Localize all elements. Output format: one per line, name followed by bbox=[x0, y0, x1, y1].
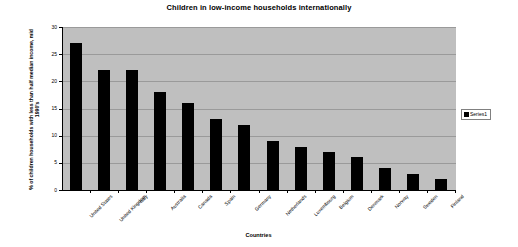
bar[interactable] bbox=[182, 103, 194, 190]
bar-slot bbox=[259, 27, 287, 190]
x-tick-mark bbox=[455, 190, 456, 193]
x-tick-mark bbox=[146, 190, 147, 193]
x-tick-mark bbox=[399, 190, 400, 193]
y-tick-label: 25 bbox=[41, 52, 57, 57]
x-tick-label: United States bbox=[89, 194, 114, 219]
bar-slot bbox=[118, 27, 146, 190]
x-tick-mark bbox=[343, 190, 344, 193]
bar-slot bbox=[399, 27, 427, 190]
bar-slot bbox=[90, 27, 118, 190]
x-tick-label: Finland bbox=[450, 194, 465, 209]
bar[interactable] bbox=[70, 43, 82, 190]
x-tick-mark bbox=[118, 190, 119, 193]
bar-slot bbox=[343, 27, 371, 190]
bar-slot bbox=[371, 27, 399, 190]
bar-slot bbox=[174, 27, 202, 190]
y-tick-label: 20 bbox=[41, 79, 57, 84]
bar-slot bbox=[146, 27, 174, 190]
bar[interactable] bbox=[210, 119, 222, 190]
y-tick-mark bbox=[59, 190, 62, 191]
chart-title: Children in low-income households intern… bbox=[0, 3, 518, 12]
bar[interactable] bbox=[154, 92, 166, 190]
bar[interactable] bbox=[295, 147, 307, 190]
x-tick-label: Luxembourg bbox=[313, 194, 336, 217]
x-tick-label: Norway bbox=[394, 194, 410, 210]
x-tick-label: Australia bbox=[170, 194, 188, 212]
x-tick-label: Belgium bbox=[338, 194, 355, 211]
x-tick-label: Netherlands bbox=[284, 194, 307, 217]
bar[interactable] bbox=[323, 152, 335, 190]
x-tick-label: Canada bbox=[197, 194, 213, 210]
bar-slot bbox=[230, 27, 258, 190]
bar[interactable] bbox=[379, 168, 391, 190]
x-tick-label: Spain bbox=[224, 194, 237, 207]
y-tick-label: 10 bbox=[41, 133, 57, 138]
bar[interactable] bbox=[126, 70, 138, 190]
x-tick-mark bbox=[202, 190, 203, 193]
legend: Series1 bbox=[461, 109, 491, 120]
legend-swatch-series1 bbox=[464, 112, 469, 117]
bar[interactable] bbox=[351, 157, 363, 190]
legend-label-series1: Series1 bbox=[470, 112, 487, 117]
x-tick-mark bbox=[371, 190, 372, 193]
y-axis-title: % of children households with less than … bbox=[28, 22, 41, 197]
bar-slot bbox=[62, 27, 90, 190]
bar-slot bbox=[287, 27, 315, 190]
bar-chart: Children in low-income households intern… bbox=[0, 0, 518, 247]
x-tick-mark bbox=[287, 190, 288, 193]
x-axis-title: Countries bbox=[62, 232, 455, 238]
x-tick-label: Italy bbox=[139, 194, 149, 204]
bar[interactable] bbox=[98, 70, 110, 190]
x-tick-label: Denmark bbox=[367, 194, 385, 212]
x-tick-mark bbox=[315, 190, 316, 193]
x-tick-mark bbox=[259, 190, 260, 193]
bar[interactable] bbox=[407, 174, 419, 190]
x-tick-label: Sweden bbox=[422, 194, 439, 211]
y-tick-label: 0 bbox=[41, 188, 57, 193]
y-tick-label: 5 bbox=[41, 160, 57, 165]
x-tick-mark bbox=[90, 190, 91, 193]
bar-slot bbox=[427, 27, 455, 190]
y-tick-label: 15 bbox=[41, 106, 57, 111]
x-tick-label: Germany bbox=[254, 194, 272, 212]
x-tick-mark bbox=[427, 190, 428, 193]
bar-slot bbox=[202, 27, 230, 190]
bars-group bbox=[62, 27, 455, 190]
bar[interactable] bbox=[267, 141, 279, 190]
y-tick-label: 30 bbox=[41, 25, 57, 30]
bar-slot bbox=[315, 27, 343, 190]
x-tick-mark bbox=[174, 190, 175, 193]
bar[interactable] bbox=[435, 179, 447, 190]
bar[interactable] bbox=[238, 125, 250, 190]
